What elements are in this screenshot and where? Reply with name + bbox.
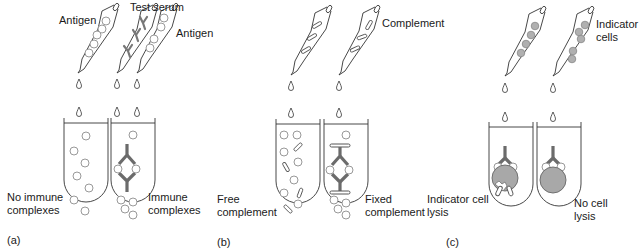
panel-tag-a: (a): [7, 234, 20, 247]
drop-icon: [115, 79, 120, 89]
label-complement: Complement: [382, 17, 444, 30]
tube-free-complement: [276, 119, 320, 214]
label-line: Free: [217, 193, 277, 206]
label-line: Fixed: [365, 193, 425, 206]
label-line: cells: [596, 31, 638, 44]
indicator-cells-bottle-icon: [553, 5, 595, 76]
tube-no-immune-complexes: [64, 118, 108, 215]
label-free-complement: Free complement: [217, 193, 277, 219]
tube-fixed-complement: [324, 119, 368, 219]
label-indicator-cell-lysis: Indicator cell lysis: [427, 193, 489, 219]
drop-icon: [503, 112, 508, 122]
panel-a: [64, 2, 179, 219]
label-line: lysis: [427, 206, 489, 219]
complement-bottle-icon: [291, 4, 333, 75]
drop-icon: [135, 79, 140, 89]
label-no-cell-lysis: No cell lysis: [574, 197, 608, 223]
label-line: No immune: [7, 191, 63, 204]
drop-icon: [135, 107, 140, 117]
label-line: No cell: [574, 197, 608, 210]
drop-icon: [77, 79, 82, 89]
drop-icon: [337, 108, 342, 118]
indicator-cells-bottle-icon: [505, 5, 547, 76]
tube-indicator-cell-lysis: [489, 122, 533, 206]
label-no-immune-complexes: No immune complexes: [7, 191, 63, 217]
label-line: Indicator cell: [427, 193, 489, 206]
label-line: complement: [217, 206, 277, 219]
label-immune-complexes: Immune complexes: [148, 191, 201, 217]
label-fixed-complement: Fixed complement: [365, 193, 425, 219]
label-line: complexes: [148, 204, 201, 217]
label-indicator-cells: Indicator cells: [596, 18, 638, 44]
label-line: Indicator: [596, 18, 638, 31]
label-line: complexes: [7, 204, 63, 217]
panel-c: [489, 5, 595, 206]
drop-icon: [337, 81, 342, 91]
complement-bottle-icon: [339, 4, 381, 75]
label-line: Immune: [148, 191, 201, 204]
label-antigen-2: Antigen: [176, 27, 213, 40]
label-antigen: Antigen: [59, 14, 96, 27]
tube-no-cell-lysis: [537, 122, 581, 206]
label-line: lysis: [574, 210, 608, 223]
drop-icon: [289, 81, 294, 91]
panel-b: [276, 4, 381, 219]
drop-icon: [503, 83, 508, 93]
drop-icon: [289, 108, 294, 118]
complement-fixation-diagram: [0, 0, 642, 251]
panel-tag-c: (c): [446, 236, 459, 249]
drop-icon: [77, 107, 82, 117]
label-line: complement: [365, 206, 425, 219]
drop-icon: [551, 112, 556, 122]
drop-icon: [115, 107, 120, 117]
drop-icon: [551, 83, 556, 93]
panel-tag-b: (b): [217, 236, 230, 249]
label-test-serum: Test serum: [130, 1, 184, 14]
